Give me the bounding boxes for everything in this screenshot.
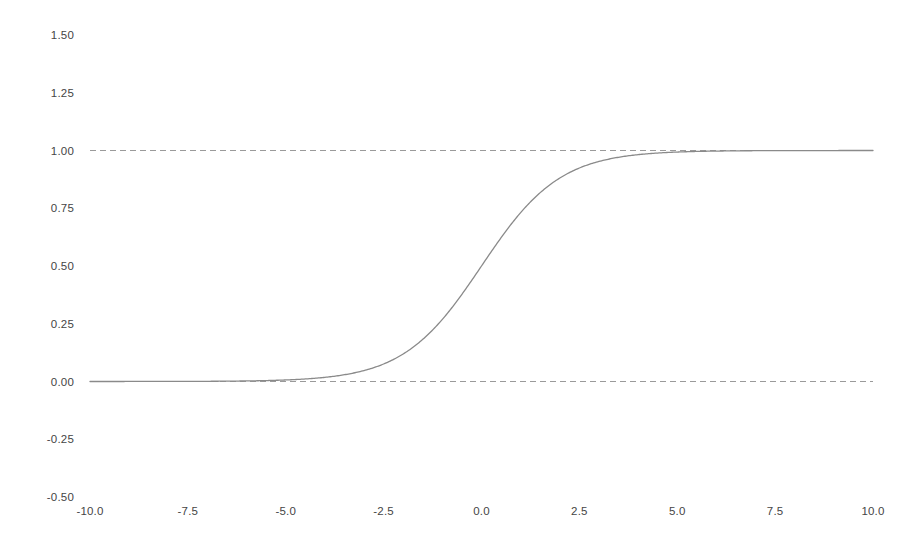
y-tick-label: -0.50 xyxy=(47,491,74,503)
y-tick-label: 1.00 xyxy=(51,145,74,157)
x-tick-label: 0.0 xyxy=(473,505,490,517)
y-tick-label: 1.50 xyxy=(51,29,74,41)
y-tick-label: 0.50 xyxy=(51,260,74,272)
x-tick-label: -10.0 xyxy=(76,505,103,517)
chart-figure: 1.501.251.000.750.500.250.00-0.25-0.50 -… xyxy=(0,0,924,549)
plot-canvas xyxy=(0,0,924,549)
plot-background xyxy=(0,0,924,549)
x-tick-label: -2.5 xyxy=(373,505,394,517)
y-tick-label: 1.25 xyxy=(51,87,74,99)
y-tick-label: 0.00 xyxy=(51,376,74,388)
y-tick-label: 0.75 xyxy=(51,202,74,214)
x-tick-label: 7.5 xyxy=(767,505,784,517)
x-tick-label: 5.0 xyxy=(669,505,686,517)
y-tick-label: -0.25 xyxy=(47,433,74,445)
x-tick-label: 2.5 xyxy=(571,505,588,517)
x-tick-label: -5.0 xyxy=(275,505,296,517)
y-tick-label: 0.25 xyxy=(51,318,74,330)
x-tick-label: -7.5 xyxy=(178,505,199,517)
x-tick-label: 10.0 xyxy=(861,505,884,517)
